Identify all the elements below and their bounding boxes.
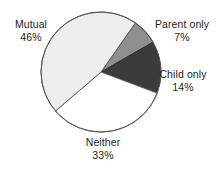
- slice-label-neither-value: 33%: [68, 149, 138, 162]
- slice-label-mutual-name: Mutual: [0, 18, 62, 31]
- slice-label-neither-name: Neither: [68, 136, 138, 149]
- slice-label-parent-only-name: Parent only: [148, 18, 216, 31]
- slice-label-child-only: Child only 14%: [150, 68, 216, 93]
- slice-label-parent-only: Parent only 7%: [148, 18, 216, 43]
- pie-chart: Mutual 46% Parent only 7% Child only 14%…: [0, 0, 216, 175]
- slice-label-neither: Neither 33%: [68, 136, 138, 161]
- slice-label-child-only-name: Child only: [150, 68, 216, 81]
- slice-label-mutual: Mutual 46%: [0, 18, 62, 43]
- slice-label-parent-only-value: 7%: [148, 31, 216, 44]
- slice-label-mutual-value: 46%: [0, 31, 62, 44]
- slice-label-child-only-value: 14%: [150, 81, 216, 94]
